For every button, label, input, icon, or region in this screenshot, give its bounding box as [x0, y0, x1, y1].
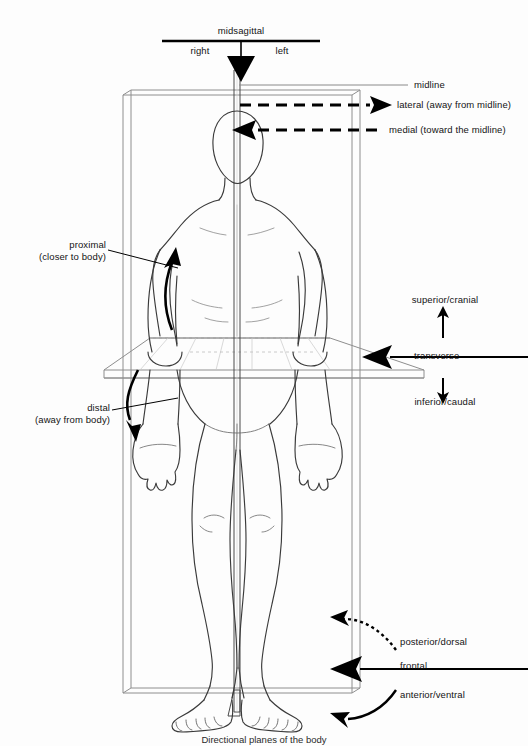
frontal-label: frontal	[400, 660, 427, 672]
inferior-caudal-label: inferior/caudal	[388, 396, 502, 408]
anterior-curved-arrow	[330, 690, 396, 728]
lateral-arrow	[240, 96, 392, 114]
lateral-label: lateral (away from midline)	[397, 99, 511, 111]
frontal-plane-shape	[123, 90, 360, 693]
right-side-label: right	[170, 45, 230, 57]
medial-arrow	[232, 120, 380, 140]
proximal-label-line1: proximal	[0, 239, 106, 251]
transverse-label: transverse	[414, 350, 459, 362]
diagram-canvas	[0, 0, 528, 746]
midline-label: midline	[414, 79, 445, 91]
posterior-curved-arrow	[330, 610, 396, 650]
left-side-label: left	[252, 45, 312, 57]
superior-cranial-label: superior/cranial	[388, 294, 502, 306]
proximal-label-line2: (closer to body)	[0, 251, 106, 263]
distal-label-line2: (away from body)	[0, 414, 110, 426]
human-figure	[133, 111, 343, 732]
superior-arrow	[437, 306, 449, 338]
figure-caption: Directional planes of the body	[0, 734, 528, 746]
anterior-ventral-label: anterior/ventral	[400, 689, 465, 701]
medial-label: medial (toward the midline)	[389, 124, 506, 136]
anatomical-planes-figure: midsagittal right left midline lateral (…	[0, 0, 528, 746]
distal-label-line1: distal	[0, 402, 110, 414]
midsagittal-down-arrow	[227, 56, 255, 82]
midsagittal-plane-label: midsagittal	[191, 25, 291, 37]
posterior-dorsal-label: posterior/dorsal	[400, 636, 467, 648]
